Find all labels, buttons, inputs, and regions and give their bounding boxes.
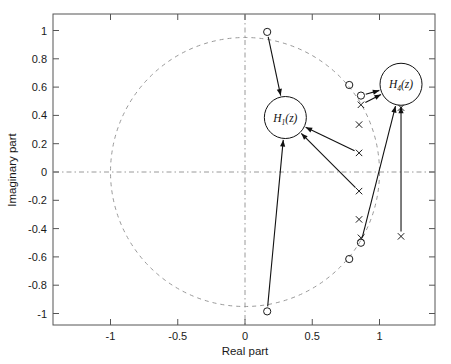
callout-label-tail: (z) <box>401 78 413 91</box>
y-tick-label: -0.4 <box>28 223 47 235</box>
x-tick-label: 0 <box>242 330 248 342</box>
y-tick-label: 0.2 <box>32 138 47 150</box>
x-tick-label: 1 <box>376 330 382 342</box>
y-tick-label: -1 <box>37 308 47 320</box>
y-tick-label: 1 <box>41 25 47 37</box>
x-axis-title: Real part <box>222 345 269 357</box>
y-tick-label: 0.6 <box>32 81 47 93</box>
plot-canvas: -1-0.500.51 10.80.60.40.20-0.2-0.4-0.6-0… <box>0 0 451 364</box>
x-tick-label: -1 <box>106 330 116 342</box>
y-tick-label: -0.8 <box>28 279 47 291</box>
pole-zero-plot-figure: -1-0.500.51 10.80.60.40.20-0.2-0.4-0.6-0… <box>0 0 451 364</box>
x-tick-label: -0.5 <box>168 330 187 342</box>
y-tick-label: -0.6 <box>28 251 47 263</box>
y-tick-label: 0 <box>41 166 47 178</box>
callout-label-tail: (z) <box>285 112 297 125</box>
y-tick-label: -0.2 <box>28 194 47 206</box>
y-tick-label: 0.8 <box>32 53 47 65</box>
x-tick-label: 0.5 <box>305 330 320 342</box>
y-tick-label: 0.4 <box>32 109 47 121</box>
y-axis-title: Imaginary part <box>6 132 18 206</box>
